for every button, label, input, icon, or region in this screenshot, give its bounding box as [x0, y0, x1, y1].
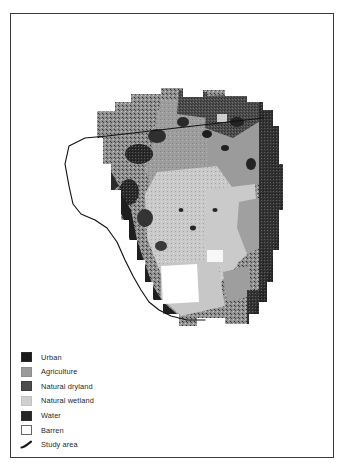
water-swatch — [21, 411, 32, 421]
natural-wetland-swatch — [21, 396, 32, 406]
legend-label-barren: Barren — [41, 427, 64, 434]
legend-item-study-area: Study area — [20, 438, 180, 453]
legend-item-water: Water — [20, 408, 180, 423]
map-legend: Urban Agriculture Natural dryland Natura… — [20, 350, 180, 452]
legend-label-natural-dryland: Natural dryland — [41, 383, 93, 390]
legend-item-natural-dryland: Natural dryland — [20, 379, 180, 394]
natural-dryland-swatch — [21, 381, 32, 391]
legend-item-barren: Barren — [20, 423, 180, 438]
legend-item-urban: Urban — [20, 350, 180, 365]
legend-item-agriculture: Agriculture — [20, 365, 180, 380]
legend-label-agriculture: Agriculture — [41, 368, 77, 375]
legend-label-water: Water — [41, 412, 61, 419]
figure-frame: Urban Agriculture Natural dryland Natura… — [10, 13, 334, 458]
raster-body — [91, 84, 291, 334]
legend-label-urban: Urban — [41, 354, 62, 361]
study-area-line-swatch — [21, 440, 32, 450]
barren-swatch — [21, 425, 32, 435]
urban-swatch — [21, 352, 32, 362]
legend-label-natural-wetland: Natural wetland — [41, 397, 94, 404]
agriculture-swatch — [21, 367, 32, 377]
legend-label-study-area: Study area — [41, 441, 78, 448]
legend-item-natural-wetland: Natural wetland — [20, 394, 180, 409]
figure-root: Urban Agriculture Natural dryland Natura… — [0, 0, 346, 474]
